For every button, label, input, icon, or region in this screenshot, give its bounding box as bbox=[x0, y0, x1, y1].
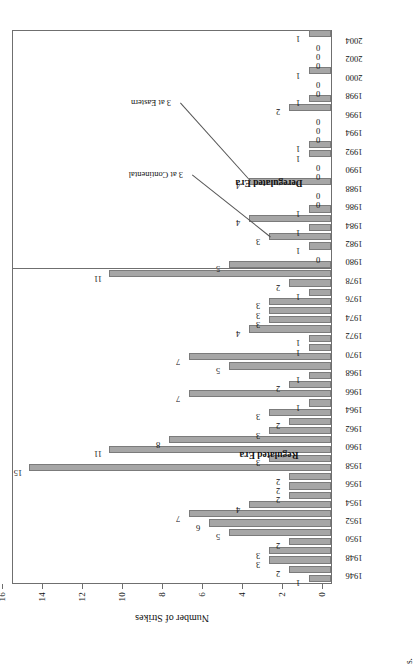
bar-slot: 1 bbox=[13, 140, 331, 149]
tick-mark bbox=[122, 584, 123, 589]
bar-value-label: 11 bbox=[94, 449, 102, 459]
bar bbox=[229, 362, 331, 369]
bar-slot: 0 bbox=[13, 131, 331, 140]
bar bbox=[309, 372, 331, 379]
bar-slot: 2 bbox=[13, 472, 331, 481]
bar-slot: 3 bbox=[13, 546, 331, 555]
bar-value-label: 3 bbox=[256, 551, 260, 561]
bar bbox=[289, 482, 331, 489]
category-label: 1960 bbox=[346, 442, 363, 452]
tick-mark bbox=[242, 584, 243, 589]
tick-mark bbox=[202, 584, 203, 589]
value-tick: 2 bbox=[277, 592, 287, 597]
bar-slot: 0 bbox=[13, 47, 331, 56]
value-tick: 14 bbox=[37, 592, 47, 601]
bar-value-label: 1 bbox=[296, 34, 300, 44]
category-label: 1992 bbox=[346, 146, 363, 156]
bar-slot: 1 bbox=[13, 334, 331, 343]
bar-value-label: 1 bbox=[296, 228, 300, 238]
bar-value-label: 1 bbox=[296, 338, 300, 348]
tick-mark bbox=[42, 584, 43, 589]
bar-value-label: 4 bbox=[236, 505, 240, 515]
bar-slot: 0 bbox=[13, 251, 331, 260]
bar-value-label: 0 bbox=[316, 200, 320, 210]
category-label: 2002 bbox=[346, 54, 363, 64]
bar-slot: 2 bbox=[13, 417, 331, 426]
bar bbox=[309, 335, 331, 342]
bar-value-label: 3 bbox=[256, 311, 260, 321]
category-label: 1962 bbox=[346, 423, 363, 433]
bar-value-label: 11 bbox=[94, 274, 102, 284]
value-axis-title: Number of Strikes bbox=[72, 613, 272, 624]
bar-slot: 3 bbox=[13, 232, 331, 241]
bar bbox=[249, 501, 331, 508]
bar-value-label: 15 bbox=[14, 468, 23, 478]
tick-mark bbox=[162, 584, 163, 589]
bar-value-label: 7 bbox=[176, 514, 180, 524]
category-label: 1966 bbox=[346, 386, 363, 396]
value-tick: 10 bbox=[117, 592, 127, 601]
annotation-label: 3 at Continental bbox=[129, 170, 183, 180]
bar bbox=[289, 473, 331, 480]
category-label: 1986 bbox=[346, 202, 363, 212]
bar-value-label: 0 bbox=[316, 135, 320, 145]
bar-value-label: 0 bbox=[316, 80, 320, 90]
bar-value-label: 2 bbox=[276, 283, 280, 293]
bar-value-label: 7 bbox=[176, 357, 180, 367]
bar-slot: 7 bbox=[13, 509, 331, 518]
bar-value-label: 3 bbox=[256, 431, 260, 441]
bar-value-label: 3 bbox=[256, 237, 260, 247]
bar-value-label: 5 bbox=[216, 366, 220, 376]
bar bbox=[209, 519, 331, 526]
category-label: 1970 bbox=[346, 349, 363, 359]
bar-slot: 4 bbox=[13, 214, 331, 223]
category-label: 1968 bbox=[346, 368, 363, 378]
value-tick: 16 bbox=[0, 592, 7, 601]
bar bbox=[249, 215, 331, 222]
bar bbox=[269, 556, 331, 563]
bar-value-label: 4 bbox=[236, 329, 240, 339]
bar-slot: 3 bbox=[13, 426, 331, 435]
bar bbox=[309, 224, 331, 231]
bar-value-label: 0 bbox=[316, 191, 320, 201]
bar-value-label: 1 bbox=[296, 348, 300, 358]
bar bbox=[309, 242, 331, 249]
bar-slot: 1 bbox=[13, 149, 331, 158]
tick-mark bbox=[2, 584, 3, 589]
bar-slot: 0 bbox=[13, 195, 331, 204]
bar-slot: 4 bbox=[13, 500, 331, 509]
bar bbox=[269, 316, 331, 323]
bar bbox=[289, 538, 331, 545]
category-label: 1974 bbox=[346, 312, 363, 322]
bar-slot: 1 bbox=[13, 66, 331, 75]
bar-slot: 3 bbox=[13, 297, 331, 306]
bar-slot: 8 bbox=[13, 435, 331, 444]
category-label: 1982 bbox=[346, 238, 363, 248]
bar-value-label: 1 bbox=[296, 403, 300, 413]
bar-value-label: 0 bbox=[316, 126, 320, 136]
era-label: Regulated Era bbox=[240, 450, 299, 460]
bar-slot: 2 bbox=[13, 565, 331, 574]
bar-slot: 1 bbox=[13, 288, 331, 297]
bar bbox=[309, 399, 331, 406]
category-label: 1972 bbox=[346, 331, 363, 341]
category-label: 1978 bbox=[346, 275, 363, 285]
bar-slot: 1 bbox=[13, 371, 331, 380]
bar bbox=[189, 390, 331, 397]
bar-slot: 3 bbox=[13, 408, 331, 417]
category-label: 1996 bbox=[346, 109, 363, 119]
value-tick: 4 bbox=[237, 592, 247, 597]
bar-value-label: 1 bbox=[296, 71, 300, 81]
category-label: 1958 bbox=[346, 460, 363, 470]
category-label: 2004 bbox=[346, 35, 363, 45]
bar bbox=[309, 150, 331, 157]
bar bbox=[269, 307, 331, 314]
bar-value-label: 1 bbox=[296, 375, 300, 385]
bar-slot: 0 bbox=[13, 57, 331, 66]
category-label: 1950 bbox=[346, 534, 363, 544]
bar-value-label: 0 bbox=[316, 89, 320, 99]
bar-slot: 4 bbox=[13, 324, 331, 333]
bar-slot: 0 bbox=[13, 121, 331, 130]
bar-slot: 1 bbox=[13, 223, 331, 232]
bar bbox=[229, 529, 331, 536]
